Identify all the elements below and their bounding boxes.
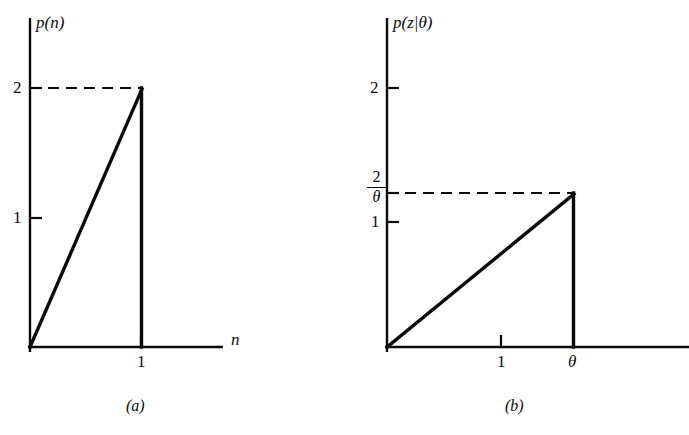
y-axis-title-a: p(n) (36, 14, 64, 31)
y-tick-label-fraction-b: 2 θ (367, 169, 386, 205)
y-axis-title-b: p(z|θ) (393, 14, 432, 31)
y-tick-label-1-a: 1 (13, 209, 22, 226)
panel-a-plot (0, 0, 345, 435)
x-tick-label-1-b: 1 (497, 353, 506, 370)
y-tick-label-2-b: 2 (370, 79, 379, 96)
density-ramp-a (30, 89, 142, 347)
y-tick-label-2-a: 2 (13, 79, 22, 96)
fraction-denominator-b: θ (367, 188, 386, 205)
fraction-numerator-b: 2 (367, 169, 386, 186)
panel-b: p(z|θ) 2 2 θ 1 1 θ z (b) (345, 0, 689, 435)
panel-b-plot (345, 0, 689, 435)
figure-container: p(n) 2 1 1 n (a) p( (0, 0, 689, 435)
x-tick-label-theta-b: θ (568, 353, 576, 370)
y-tick-label-1-b: 1 (371, 213, 380, 230)
panel-caption-a: (a) (126, 398, 145, 414)
x-axis-name-a: n (231, 331, 240, 348)
density-ramp-b (387, 194, 574, 347)
panel-a: p(n) 2 1 1 n (a) (0, 0, 345, 435)
panel-caption-b: (b) (505, 398, 524, 414)
x-tick-label-1-a: 1 (137, 353, 146, 370)
